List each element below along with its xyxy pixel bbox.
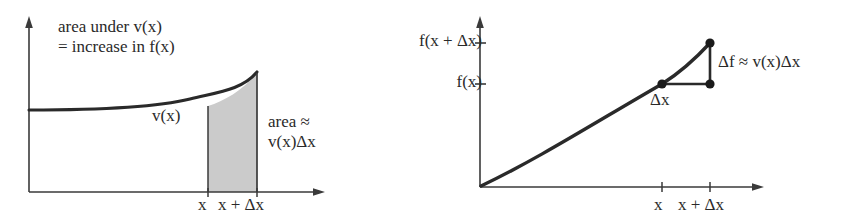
curve-label-vx: v(x) xyxy=(152,106,180,126)
x-tick-label-x: x xyxy=(198,195,207,215)
area-label-line-2: v(x)Δx xyxy=(268,132,316,152)
distance-curve-fx xyxy=(481,43,710,186)
delta-f-annotation: Δf ≈ v(x)Δx xyxy=(718,52,800,72)
area-approximation-label: area ≈ v(x)Δx xyxy=(268,112,316,152)
caption-line-2: = increase in f(x) xyxy=(58,37,175,57)
x-axis-arrowhead xyxy=(752,183,764,191)
y-tick-label-f-x-plus-dx: f(x + Δx) xyxy=(419,31,482,51)
x-tick-label-x-plus-dx: x + Δx xyxy=(218,195,264,215)
caption-area-under-v: area under v(x) = increase in f(x) xyxy=(58,17,175,57)
caption-line-1: area under v(x) xyxy=(58,17,175,37)
point-at-x-plus-dx xyxy=(705,38,714,47)
point-at-x xyxy=(657,79,666,88)
right-panel-graphic xyxy=(426,0,852,223)
x-axis-arrowhead xyxy=(313,188,325,196)
y-tick-label-f-x: f(x) xyxy=(457,72,482,92)
x-tick-label-x: x xyxy=(654,195,663,215)
right-panel-increase-in-f: f(x + Δx) f(x) Δf ≈ v(x)Δx Δx x x + Δx xyxy=(426,0,852,223)
figure-root: area under v(x) = increase in f(x) v(x) … xyxy=(0,0,852,223)
shaded-area-region xyxy=(208,73,257,192)
area-label-line-1: area ≈ xyxy=(268,112,316,132)
y-axis-arrowhead xyxy=(476,16,484,28)
x-tick-label-x-plus-dx: x + Δx xyxy=(678,195,724,215)
point-corner xyxy=(705,79,714,88)
delta-x-leg-label: Δx xyxy=(650,90,669,110)
y-axis-arrowhead xyxy=(25,16,33,28)
left-panel-area-under-curve: area under v(x) = increase in f(x) v(x) … xyxy=(0,0,426,223)
